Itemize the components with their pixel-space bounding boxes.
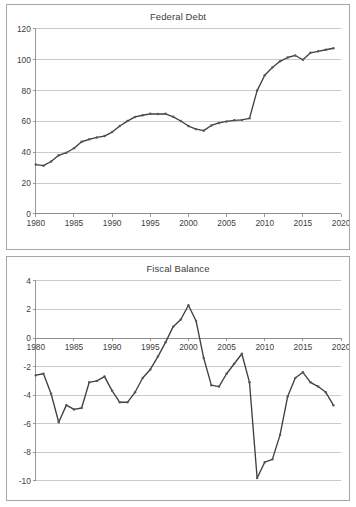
x-tick-label: 2005 bbox=[217, 218, 236, 228]
data-point-marker bbox=[233, 119, 235, 121]
data-point-marker bbox=[126, 401, 128, 403]
y-tick-label: 20 bbox=[22, 178, 32, 188]
data-point-marker bbox=[241, 119, 243, 121]
data-point-marker bbox=[35, 373, 37, 375]
data-point-marker bbox=[256, 89, 258, 91]
x-tick-label: 2000 bbox=[179, 341, 198, 351]
data-point-marker bbox=[317, 385, 319, 387]
data-point-marker bbox=[73, 408, 75, 410]
y-tick-label: 120 bbox=[17, 24, 31, 34]
data-point-marker bbox=[164, 113, 166, 115]
data-point-marker bbox=[119, 401, 121, 403]
data-point-marker bbox=[126, 120, 128, 122]
data-point-marker bbox=[42, 164, 44, 166]
data-point-marker bbox=[141, 114, 143, 116]
x-tick-label: 1980 bbox=[27, 341, 46, 351]
data-point-marker bbox=[271, 458, 273, 460]
data-point-marker bbox=[172, 116, 174, 118]
data-point-marker bbox=[233, 362, 235, 364]
data-point-marker bbox=[195, 128, 197, 130]
data-point-marker bbox=[157, 355, 159, 357]
data-point-marker bbox=[80, 141, 82, 143]
data-point-marker bbox=[35, 163, 37, 165]
x-tick-label: 2015 bbox=[294, 341, 313, 351]
data-point-marker bbox=[225, 372, 227, 374]
data-point-marker bbox=[73, 147, 75, 149]
data-point-marker bbox=[332, 47, 334, 49]
data-point-marker bbox=[149, 368, 151, 370]
x-tick-label: 2020 bbox=[332, 218, 349, 228]
data-point-marker bbox=[195, 319, 197, 321]
y-tick-label: -6 bbox=[23, 418, 31, 428]
data-point-marker bbox=[172, 325, 174, 327]
data-point-marker bbox=[241, 352, 243, 354]
data-point-marker bbox=[309, 52, 311, 54]
fiscal-balance-svg: -10-8-6-4-202419801985199019952000200520… bbox=[7, 275, 349, 495]
data-point-marker bbox=[302, 59, 304, 61]
x-tick-label: 2000 bbox=[179, 218, 198, 228]
x-tick-label: 2010 bbox=[255, 218, 274, 228]
data-point-marker bbox=[294, 54, 296, 56]
data-point-marker bbox=[180, 120, 182, 122]
data-point-marker bbox=[218, 122, 220, 124]
data-point-marker bbox=[96, 136, 98, 138]
x-tick-label: 2010 bbox=[255, 341, 274, 351]
x-tick-label: 2015 bbox=[294, 218, 313, 228]
fiscal-balance-title: Fiscal Balance bbox=[7, 257, 349, 275]
data-point-marker bbox=[332, 403, 334, 405]
data-point-marker bbox=[286, 56, 288, 58]
data-point-marker bbox=[248, 117, 250, 119]
data-point-marker bbox=[111, 389, 113, 391]
data-point-marker bbox=[65, 403, 67, 405]
data-point-marker bbox=[325, 391, 327, 393]
data-point-marker bbox=[134, 391, 136, 393]
y-tick-label: 40 bbox=[22, 147, 32, 157]
data-point-marker bbox=[279, 433, 281, 435]
x-tick-label: 1995 bbox=[141, 218, 160, 228]
data-point-marker bbox=[271, 66, 273, 68]
y-tick-label: 60 bbox=[22, 116, 32, 126]
data-point-marker bbox=[57, 154, 59, 156]
chart-page: Federal Debt 020406080100120198019851990… bbox=[0, 0, 356, 507]
y-tick-label: 2 bbox=[26, 304, 31, 314]
data-point-marker bbox=[325, 49, 327, 51]
data-point-marker bbox=[286, 395, 288, 397]
data-series-line bbox=[36, 48, 334, 165]
data-point-marker bbox=[218, 385, 220, 387]
federal-debt-plot-area: 0204060801001201980198519901995200020052… bbox=[7, 23, 349, 236]
data-point-marker bbox=[202, 129, 204, 131]
data-point-marker bbox=[187, 303, 189, 305]
x-tick-label: 1990 bbox=[103, 218, 122, 228]
data-point-marker bbox=[42, 372, 44, 374]
data-point-marker bbox=[202, 356, 204, 358]
data-point-marker bbox=[302, 371, 304, 373]
federal-debt-panel: Federal Debt 020406080100120198019851990… bbox=[6, 4, 350, 250]
data-point-marker bbox=[149, 113, 151, 115]
y-tick-label: -8 bbox=[23, 447, 31, 457]
fiscal-balance-panel: Fiscal Balance -10-8-6-4-202419801985199… bbox=[6, 256, 350, 502]
data-point-marker bbox=[96, 379, 98, 381]
data-point-marker bbox=[187, 125, 189, 127]
data-point-marker bbox=[141, 376, 143, 378]
data-point-marker bbox=[309, 381, 311, 383]
data-point-marker bbox=[50, 392, 52, 394]
data-point-marker bbox=[264, 460, 266, 462]
y-tick-label: 4 bbox=[26, 275, 31, 285]
data-point-marker bbox=[111, 131, 113, 133]
x-tick-label: 2005 bbox=[217, 341, 236, 351]
data-point-marker bbox=[119, 125, 121, 127]
data-point-marker bbox=[157, 113, 159, 115]
y-tick-label: -4 bbox=[23, 390, 31, 400]
data-point-marker bbox=[317, 50, 319, 52]
x-tick-label: 1985 bbox=[65, 218, 84, 228]
y-tick-label: -2 bbox=[23, 361, 31, 371]
data-point-marker bbox=[88, 381, 90, 383]
x-tick-label: 1980 bbox=[27, 218, 46, 228]
data-point-marker bbox=[180, 318, 182, 320]
federal-debt-title: Federal Debt bbox=[7, 5, 349, 23]
x-tick-label: 1990 bbox=[103, 341, 122, 351]
fiscal-balance-plot-area: -10-8-6-4-202419801985199019952000200520… bbox=[7, 275, 349, 495]
data-point-marker bbox=[57, 421, 59, 423]
data-point-marker bbox=[103, 375, 105, 377]
data-point-marker bbox=[256, 476, 258, 478]
